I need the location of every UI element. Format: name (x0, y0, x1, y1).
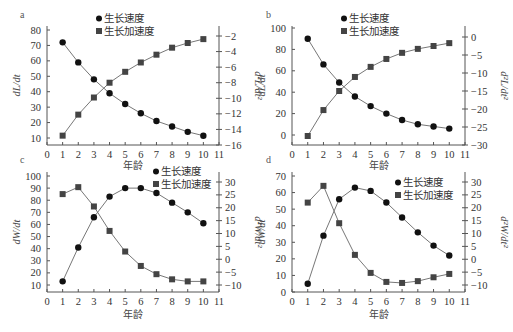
y-tick-label: 50 (31, 231, 42, 242)
y-axis-label: dW/dt (11, 218, 22, 244)
y2-tick-label: −15 (471, 86, 487, 97)
square-marker (122, 249, 128, 255)
square-marker (107, 80, 113, 86)
square-marker (446, 40, 452, 46)
square-marker (305, 133, 311, 139)
y2-tick-label: 0 (471, 32, 476, 43)
y-tick-label: 100 (270, 23, 286, 34)
x-tick-label: 9 (431, 296, 436, 307)
legend-growth-acceleration: 生长加速度 (403, 189, 454, 201)
x-tick-label: 0 (44, 149, 49, 160)
axes (47, 172, 222, 292)
square-marker (60, 133, 66, 139)
square-marker (107, 228, 113, 234)
circle-marker (399, 214, 405, 220)
circle-marker (320, 61, 326, 67)
x-tick-label: 10 (444, 296, 455, 307)
square-marker (138, 263, 144, 269)
legend-growth-rate: 生长速度 (349, 12, 390, 24)
x-tick-label: 2 (321, 296, 326, 307)
growth-curves-figure: a012345678910111020304050607080−16−14−12… (0, 0, 513, 332)
x-tick-label: 1 (305, 296, 310, 307)
panel-letter: c (20, 154, 25, 165)
x-tick-label: 4 (107, 296, 113, 307)
x-tick-label: 2 (76, 296, 81, 307)
x-tick-label: 6 (384, 296, 389, 307)
circle-marker (367, 188, 373, 194)
legend-square-icon (96, 28, 102, 34)
y-tick-label: 100 (25, 171, 41, 182)
y2-axis-label: d²W/dt² (499, 216, 510, 248)
y-tick-label: 60 (31, 219, 42, 230)
circle-marker (138, 185, 144, 191)
y-tick-label: 20 (31, 117, 42, 128)
square-marker (383, 279, 389, 285)
legend-circle-icon (153, 169, 159, 175)
y-tick-label: 10 (276, 270, 287, 281)
legend-circle-icon (341, 16, 347, 22)
x-tick-label: 7 (154, 296, 159, 307)
y-tick-label: 50 (276, 204, 287, 215)
x-tick-label: 3 (91, 296, 96, 307)
legend-growth-acceleration: 生长加速度 (161, 178, 212, 190)
circle-marker (446, 125, 452, 131)
y2-tick-label: 5 (225, 241, 230, 252)
y2-tick-label: −10 (471, 280, 487, 291)
x-tick-label: 5 (123, 149, 128, 160)
circle-marker (106, 90, 112, 96)
y-tick-label: 70 (31, 207, 42, 218)
square-marker (415, 278, 421, 284)
y-tick-label: 80 (276, 44, 287, 55)
legend-growth-acceleration: 生长加速度 (104, 25, 155, 37)
circle-marker (200, 132, 206, 138)
circle-marker (352, 184, 358, 190)
series-line (63, 42, 204, 135)
x-tick-label: 3 (337, 296, 342, 307)
circle-marker (169, 199, 175, 205)
circle-marker (415, 229, 421, 235)
x-tick-label: 6 (138, 296, 143, 307)
x-tick-label: 0 (289, 149, 294, 160)
y-tick-label: 30 (31, 255, 42, 266)
x-tick-label: 5 (123, 296, 128, 307)
circle-marker (106, 193, 112, 199)
circle-marker (305, 36, 311, 42)
x-tick-label: 11 (214, 149, 224, 160)
y-tick-label: 10 (31, 280, 42, 291)
square-marker (336, 220, 342, 226)
y-tick-label: 10 (31, 133, 42, 144)
x-tick-label: 10 (444, 149, 455, 160)
square-marker (320, 107, 326, 113)
circle-marker (336, 79, 342, 85)
square-marker (75, 184, 81, 190)
square-marker (153, 52, 159, 58)
series-growth-acceleration (60, 184, 207, 284)
y2-tick-label: −14 (225, 124, 242, 135)
legend: 生长速度生长加速度 (153, 165, 212, 190)
x-tick-label: 4 (352, 296, 358, 307)
series-line (308, 43, 450, 136)
circle-marker (122, 101, 128, 107)
legend-square-icon (341, 28, 347, 34)
circle-marker (153, 190, 159, 196)
y-tick-label: 70 (276, 171, 287, 182)
y-tick-label: 40 (31, 243, 42, 254)
legend: 生长速度生长加速度 (341, 12, 400, 37)
y-tick-label: 80 (31, 195, 42, 206)
y2-tick-label: 15 (225, 215, 236, 226)
x-tick-label: 2 (76, 149, 81, 160)
legend-growth-acceleration: 生长加速度 (349, 25, 400, 37)
y2-tick-label: −5 (225, 267, 236, 278)
legend-growth-rate: 生长速度 (403, 176, 444, 188)
x-tick-label: 9 (185, 149, 190, 160)
square-marker (352, 252, 358, 258)
circle-marker (446, 252, 452, 258)
y2-tick-label: 10 (225, 228, 236, 239)
legend-square-icon (395, 192, 401, 198)
circle-marker (383, 199, 389, 205)
y2-tick-label: −8 (225, 77, 236, 88)
circle-marker (75, 244, 81, 250)
legend-growth-rate: 生长速度 (161, 165, 202, 177)
circle-marker (305, 281, 311, 287)
y-axis-label: dL/dt (11, 73, 22, 96)
